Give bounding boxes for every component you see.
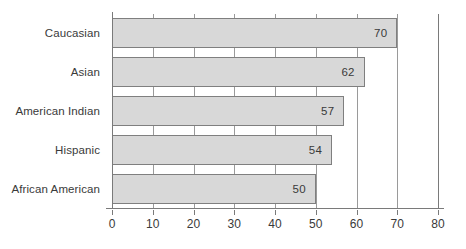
bar-value-label: 57 — [321, 105, 334, 117]
bar: 57 — [112, 96, 344, 126]
bar: 70 — [112, 18, 397, 48]
plot-area: 7062575450 — [112, 14, 438, 208]
x-tick-mark — [153, 210, 154, 215]
category-label: American Indian — [0, 92, 106, 131]
x-tick-label: 70 — [391, 217, 404, 231]
bar-rows: 7062575450 — [112, 14, 438, 208]
bar-row: 54 — [112, 130, 438, 169]
bar-value-label: 62 — [341, 66, 354, 78]
x-tick-label: 80 — [431, 217, 444, 231]
category-label: Asian — [0, 53, 106, 92]
x-tick-mark — [397, 210, 398, 215]
bar: 62 — [112, 57, 365, 87]
category-axis-labels: CaucasianAsianAmerican IndianHispanicAfr… — [0, 14, 106, 208]
x-tick-mark — [357, 210, 358, 215]
gridline-80 — [438, 14, 439, 208]
y-axis-line — [112, 12, 113, 209]
x-axis-ticks: 01020304050607080 — [112, 210, 438, 236]
x-tick-mark — [234, 210, 235, 215]
bar-row: 70 — [112, 14, 438, 53]
bar-value-label: 54 — [309, 144, 322, 156]
bar-row: 57 — [112, 92, 438, 131]
x-tick-mark — [112, 210, 113, 215]
x-tick-label: 20 — [187, 217, 200, 231]
category-label: African American — [0, 169, 106, 208]
x-tick-label: 40 — [268, 217, 281, 231]
x-tick-mark — [275, 210, 276, 215]
category-label: Hispanic — [0, 130, 106, 169]
category-label: Caucasian — [0, 14, 106, 53]
bar-row: 50 — [112, 169, 438, 208]
x-axis-line — [106, 208, 444, 209]
x-tick-mark — [438, 210, 439, 215]
x-tick-mark — [316, 210, 317, 215]
x-tick-label: 0 — [109, 217, 116, 231]
bar-row: 62 — [112, 53, 438, 92]
x-tick-mark — [194, 210, 195, 215]
x-tick-label: 10 — [146, 217, 159, 231]
x-tick-label: 50 — [309, 217, 322, 231]
x-tick-label: 30 — [228, 217, 241, 231]
bar-chart: 7062575450 CaucasianAsianAmerican Indian… — [0, 0, 466, 249]
bar: 50 — [112, 174, 316, 204]
bar-value-label: 50 — [293, 183, 306, 195]
x-tick-label: 60 — [350, 217, 363, 231]
bar-value-label: 70 — [374, 27, 387, 39]
bar: 54 — [112, 135, 332, 165]
